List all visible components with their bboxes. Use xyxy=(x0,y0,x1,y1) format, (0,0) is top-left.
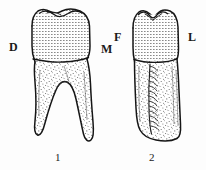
tooth-illustration-figure: D M F L 1 2 xyxy=(0,0,206,170)
orientation-label-facial: F xyxy=(114,31,121,43)
orientation-label-distal: D xyxy=(9,41,18,53)
specimen-1-drawing xyxy=(28,5,98,148)
figure-number-2: 2 xyxy=(149,152,155,163)
figure-number-1: 1 xyxy=(55,152,61,163)
orientation-label-lingual: L xyxy=(188,31,196,43)
specimen-2-drawing xyxy=(129,5,186,146)
figure-drawing xyxy=(0,0,206,170)
orientation-label-mesial: M xyxy=(101,43,112,55)
